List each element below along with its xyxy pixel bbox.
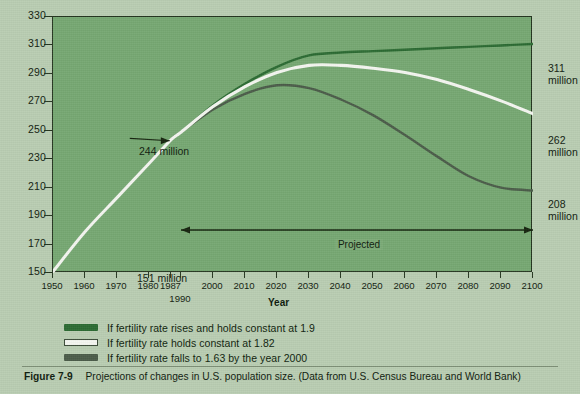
legend-swatch [64, 339, 98, 346]
y-tick [44, 73, 52, 74]
legend-item: If fertility rate falls to 1.63 by the y… [64, 350, 484, 365]
legend-label: If fertility rate falls to 1.63 by the y… [107, 352, 307, 364]
x-tick [500, 272, 501, 278]
projected-label: Projected [335, 239, 383, 250]
legend: If fertility rate rises and holds consta… [64, 320, 484, 365]
y-tick [44, 244, 52, 245]
y-tick-label: 330 [6, 10, 46, 20]
projected-arrow [181, 226, 533, 233]
y-tick-label: 290 [6, 67, 46, 77]
x-sub-tick-label: 1990 [159, 293, 201, 304]
x-tick [436, 272, 437, 278]
y-tick [44, 16, 52, 17]
figure-container: Population (millions) 150170190210230250… [0, 0, 580, 394]
y-tick [44, 272, 52, 273]
x-tick [170, 272, 171, 278]
x-axis-title: Year [268, 297, 289, 308]
callout-label-244: 244 million [139, 145, 189, 157]
callout-arrow-244 [130, 137, 170, 144]
x-tick-label: 1987 [149, 280, 191, 291]
x-tick [84, 272, 85, 278]
y-tick [44, 187, 52, 188]
figure-caption: Figure 7-9 Projections of changes in U.S… [24, 371, 564, 382]
legend-swatch [64, 324, 98, 331]
end-label-mid: 262 million [548, 135, 578, 158]
series-canvas [53, 17, 533, 273]
x-tick [244, 272, 245, 278]
series-line [53, 85, 533, 272]
x-tick [148, 272, 149, 278]
y-tick [44, 215, 52, 216]
end-label-low: 208 million [548, 199, 578, 222]
figure-number: Figure 7-9 [24, 371, 73, 382]
legend-label: If fertility rate holds constant at 1.82 [107, 337, 275, 349]
x-tick [468, 272, 469, 278]
series-line [53, 65, 533, 272]
x-tick [116, 272, 117, 278]
x-tick [212, 272, 213, 278]
y-tick [44, 44, 52, 45]
y-tick-label: 250 [6, 124, 46, 134]
figure-caption-text: Projections of changes in U.S. populatio… [86, 371, 521, 382]
legend-item: If fertility rate holds constant at 1.82 [64, 335, 484, 350]
x-tick [532, 272, 533, 278]
y-tick-label: 210 [6, 181, 46, 191]
x-tick-label: 2100 [511, 280, 553, 291]
y-tick-label: 190 [6, 209, 46, 219]
x-tick [308, 272, 309, 278]
y-tick [44, 158, 52, 159]
y-tick-label: 270 [6, 95, 46, 105]
y-tick-label: 230 [6, 152, 46, 162]
x-sub-tick [180, 272, 181, 278]
y-tick-label: 150 [6, 266, 46, 276]
chart: Population (millions) 150170190210230250… [0, 0, 580, 310]
x-tick [404, 272, 405, 278]
legend-label: If fertility rate rises and holds consta… [107, 322, 315, 334]
x-tick [52, 272, 53, 278]
y-tick [44, 101, 52, 102]
x-tick [340, 272, 341, 278]
y-tick-label: 170 [6, 238, 46, 248]
series-line [53, 44, 533, 272]
y-tick-label: 310 [6, 38, 46, 48]
x-tick [372, 272, 373, 278]
x-tick [276, 272, 277, 278]
caption-divider [22, 366, 558, 367]
y-tick [44, 130, 52, 131]
end-label-high: 311 million [548, 63, 578, 86]
legend-item: If fertility rate rises and holds consta… [64, 320, 484, 335]
legend-swatch [64, 354, 98, 361]
plot-area: Projected 311 million 262 million 208 mi… [52, 16, 532, 272]
